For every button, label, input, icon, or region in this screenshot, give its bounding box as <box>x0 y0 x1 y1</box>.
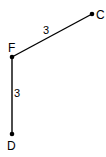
vertex-c-label: C <box>96 8 105 22</box>
edge-f-d-weight: 3 <box>14 87 20 99</box>
graph-diagram: C F D 3 3 <box>0 0 106 157</box>
edge-f-c <box>12 14 92 57</box>
vertex-d-dot <box>10 132 15 137</box>
vertex-f-dot <box>10 55 15 60</box>
vertex-c-dot <box>90 12 95 17</box>
edge-f-c-weight: 3 <box>43 24 49 36</box>
vertex-d-label: D <box>7 139 16 153</box>
vertex-f-label: F <box>8 41 15 55</box>
